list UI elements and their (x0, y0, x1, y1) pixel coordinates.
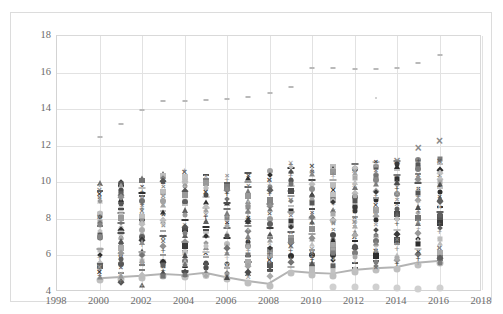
marker-dash (182, 228, 188, 230)
marker-circle (225, 234, 230, 239)
marker-x: × (159, 221, 167, 229)
plot-area: ×××++×××+×++×+××+××+××+×+××+×+×++×++××××… (56, 35, 481, 291)
marker-dash (394, 202, 400, 204)
marker-square (309, 267, 315, 273)
marker-circle (352, 267, 357, 272)
marker-triangle (373, 232, 379, 237)
y-axis-tick-label: 8 (21, 213, 51, 223)
marker-circle (415, 285, 422, 292)
marker-dash (395, 67, 400, 69)
x-axis-tick-label: 2002 (119, 295, 163, 306)
marker-triangle (224, 274, 230, 280)
marker-dash (225, 98, 230, 100)
x-axis-tick-label: 2012 (332, 295, 376, 306)
marker-square (309, 226, 315, 232)
marker-dash (96, 248, 103, 250)
marker-circle (395, 162, 400, 167)
marker-dash (203, 256, 209, 258)
marker-dash (202, 251, 209, 253)
marker-square (288, 188, 294, 194)
marker-dash (373, 68, 378, 70)
marker-circle (288, 182, 293, 187)
y-axis-tick-labels: 1816141210864 (19, 35, 51, 291)
marker-plus: + (287, 264, 294, 271)
marker-triangle (267, 266, 273, 272)
marker-dash (118, 208, 124, 210)
x-axis-tick-labels: 1998200020022004200620082010201220142016… (56, 295, 481, 311)
marker-dash (117, 232, 124, 234)
marker-x: × (412, 142, 424, 154)
marker-dash (352, 68, 357, 70)
marker-dash (97, 136, 102, 138)
marker-dash (224, 202, 231, 204)
marker-plus: + (414, 260, 422, 268)
marker-square (352, 199, 357, 204)
marker-triangle (160, 203, 166, 208)
marker-dash (288, 205, 294, 207)
marker-x: × (286, 196, 295, 205)
chart-root: 1816141210864 ×××++×××+×++×+××+××+××+×+×… (0, 0, 503, 314)
marker-plus: + (393, 220, 401, 228)
marker-circle (203, 193, 208, 198)
marker-triangle (203, 218, 209, 224)
y-axis-tick-label: 14 (21, 103, 51, 113)
marker-square (246, 253, 251, 258)
marker-circle (375, 97, 377, 99)
marker-circle (182, 272, 187, 277)
marker-x: × (434, 135, 446, 147)
marker-dash (373, 197, 379, 199)
x-axis-tick-label: 2010 (289, 295, 333, 306)
marker-circle (330, 284, 337, 291)
y-axis-tick-label: 10 (21, 176, 51, 186)
marker-square (161, 274, 166, 279)
marker-x: × (244, 172, 252, 180)
marker-square (437, 213, 442, 218)
marker-circle (372, 284, 379, 291)
y-axis-tick-label: 16 (21, 67, 51, 77)
marker-dash (140, 109, 145, 111)
marker-triangle (267, 232, 273, 237)
marker-square (331, 268, 336, 273)
x-axis-tick-label: 2018 (459, 295, 503, 306)
x-axis-tick-label: 2008 (247, 295, 291, 306)
marker-plus: + (138, 282, 146, 290)
marker-dash (352, 240, 358, 242)
marker-triangle (97, 275, 103, 280)
marker-dash (160, 254, 166, 256)
marker-plus: + (245, 226, 252, 233)
marker-circle (352, 193, 357, 198)
marker-circle (394, 285, 401, 292)
x-axis-tick-label: 1998 (34, 295, 78, 306)
y-axis-tick-label: 18 (21, 30, 51, 40)
marker-dash (139, 264, 145, 266)
marker-dash (416, 62, 421, 64)
x-axis-tick-label: 2014 (374, 295, 418, 306)
marker-square (310, 201, 315, 206)
marker-diamond (266, 272, 273, 279)
marker-triangle (373, 182, 379, 187)
x-axis-tick-label: 2006 (204, 295, 248, 306)
marker-dash (246, 96, 251, 98)
marker-circle (351, 284, 358, 291)
marker-dash (203, 229, 209, 231)
marker-dash (437, 54, 442, 56)
marker-triangle (118, 238, 124, 244)
gridline-vertical (482, 36, 483, 290)
marker-plus: + (117, 277, 125, 285)
y-axis-tick-label: 12 (21, 140, 51, 150)
x-axis-tick-label: 2004 (162, 295, 206, 306)
marker-circle (182, 213, 187, 218)
marker-dash (203, 99, 208, 101)
marker-square (416, 241, 421, 246)
marker-circle (182, 231, 187, 236)
marker-circle (97, 234, 103, 240)
marker-triangle (182, 261, 188, 267)
marker-dash (288, 86, 293, 88)
x-axis-tick-label: 2016 (417, 295, 461, 306)
marker-square (331, 263, 336, 268)
marker-dash (437, 187, 443, 189)
x-axis-tick-label: 2000 (77, 295, 121, 306)
marker-plus: + (351, 259, 358, 266)
marker-x: × (435, 202, 444, 211)
marker-x: × (372, 264, 380, 272)
